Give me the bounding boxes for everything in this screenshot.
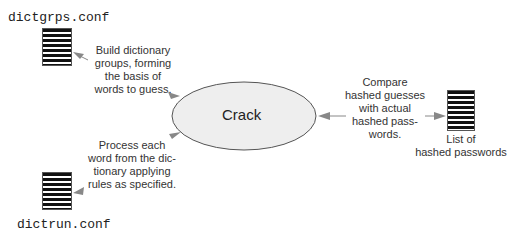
dictrun-document-icon bbox=[42, 172, 72, 210]
arrowhead-compare-to-list-icon bbox=[434, 112, 446, 120]
process-note: Process each word from the dic- tionary … bbox=[82, 139, 182, 191]
build-note: Build dictionary groups, forming the bas… bbox=[87, 44, 179, 96]
dictgrps-document-icon bbox=[42, 28, 72, 66]
compare-note: Compare hashed guesses with actual hashe… bbox=[342, 76, 428, 141]
dictrun-file-label: dictrun.conf bbox=[17, 217, 111, 232]
dictgrps-file-label: dictgrps.conf bbox=[8, 10, 109, 25]
hashed-passwords-label: List of hashed passwords bbox=[415, 133, 507, 159]
arrowhead-process-to-crack-icon bbox=[169, 132, 181, 139]
crack-label: Crack bbox=[222, 106, 261, 123]
arrowhead-build-icon bbox=[73, 52, 84, 59]
hashed-passwords-document-icon bbox=[447, 90, 475, 131]
arrowhead-compare-to-crack-icon bbox=[318, 112, 330, 120]
